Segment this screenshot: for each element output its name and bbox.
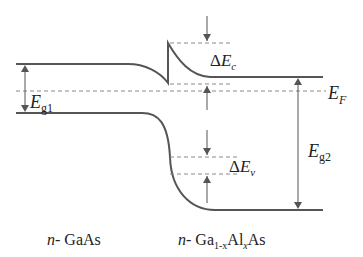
delta-ec-label: ΔEc — [210, 51, 236, 72]
valence-band — [16, 113, 323, 210]
eg2-label: Eg2 — [307, 141, 331, 164]
conduction-band — [16, 43, 323, 83]
eg1-label: Eg1 — [29, 92, 53, 115]
fermi-label: EF — [327, 83, 347, 107]
band-diagram: ΔEc EF Eg1 ΔEv Eg2 n- GaAs n- Ga1-xAlxAs — [0, 0, 363, 257]
left-material-label: n- GaAs — [47, 231, 101, 248]
right-material-label: n- Ga1-xAlxAs — [178, 231, 266, 251]
delta-ev-label: ΔEv — [229, 157, 255, 178]
